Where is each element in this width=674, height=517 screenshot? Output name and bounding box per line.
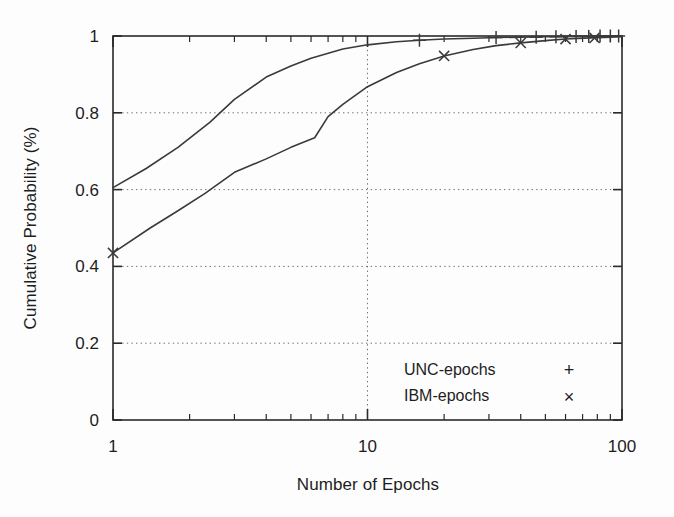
x-tick-label: 100 <box>608 437 636 456</box>
marker-plus-icon <box>490 31 503 44</box>
marker-plus-icon <box>570 30 583 43</box>
plot-frame <box>113 36 622 420</box>
y-tick-label: 0.4 <box>75 257 99 276</box>
axes-frame <box>113 36 622 420</box>
chart-legend: UNC-epochs + IBM-epochs × <box>404 360 574 407</box>
x-tick-label: 1 <box>108 437 117 456</box>
marker-plus-icon <box>549 30 562 43</box>
chart-figure: 00.20.40.60.81110100 Number of Epochs Cu… <box>0 0 674 517</box>
tick-labels: 00.20.40.60.81110100 <box>75 27 636 456</box>
chart-canvas: 00.20.40.60.81110100 Number of Epochs Cu… <box>0 0 674 517</box>
legend-label-ibm: IBM-epochs <box>404 387 489 404</box>
y-tick-label: 0.2 <box>75 334 99 353</box>
legend-marker-cross-icon: × <box>564 387 575 407</box>
x-axis-title: Number of Epochs <box>297 475 439 494</box>
series-markers <box>108 30 625 259</box>
marker-plus-icon <box>612 30 625 43</box>
legend-marker-plus-icon: + <box>564 360 575 380</box>
y-axis-title: Cumulative Probability (%) <box>21 127 40 330</box>
grid-lines <box>113 36 622 420</box>
y-tick-label: 0.8 <box>75 104 99 123</box>
axis-ticks <box>113 36 622 420</box>
y-tick-label: 1 <box>90 27 99 46</box>
x-tick-label: 10 <box>358 437 377 456</box>
y-tick-label: 0 <box>90 411 99 430</box>
y-tick-label: 0.6 <box>75 181 99 200</box>
legend-label-unc: UNC-epochs <box>404 361 496 378</box>
